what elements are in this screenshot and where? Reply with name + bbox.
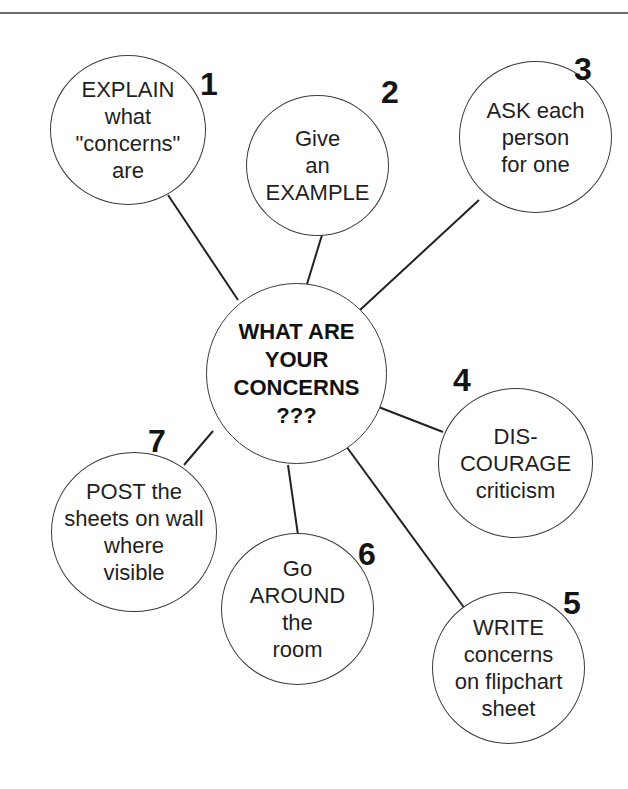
central-topic-node: WHAT ARE YOUR CONCERNS ??? [206, 283, 387, 464]
step-number-7: 7 [148, 425, 166, 457]
central-topic-label: WHAT ARE YOUR CONCERNS ??? [234, 318, 360, 430]
step-label-2: Give an EXAMPLE [266, 125, 370, 206]
step-number-6: 6 [358, 538, 376, 570]
step-label-5: WRITE concerns on flipchart sheet [455, 614, 563, 722]
step-label-4: DIS- COURAGE criticism [460, 423, 571, 504]
step-number-4: 4 [453, 364, 471, 396]
step-node-1-explain: EXPLAIN what "concerns" are [50, 55, 206, 205]
step-node-6-go-around: Go AROUND the room [221, 533, 374, 685]
step-number-1: 1 [200, 68, 218, 100]
connector-6 [288, 465, 298, 535]
step-number-2: 2 [381, 76, 399, 108]
step-number-3: 3 [574, 53, 592, 85]
step-label-1: EXPLAIN what "concerns" are [76, 76, 181, 184]
step-label-3: ASK each person for one [487, 97, 585, 178]
connector-1 [168, 195, 238, 300]
connector-7 [184, 431, 213, 465]
step-node-4-discourage: DIS- COURAGE criticism [438, 388, 593, 538]
step-number-5: 5 [563, 587, 581, 619]
connector-3 [360, 200, 479, 310]
connector-4 [376, 406, 443, 432]
step-label-7: POST the sheets on wall where visible [64, 478, 203, 586]
step-label-6: Go AROUND the room [250, 555, 345, 663]
step-node-7-post: POST the sheets on wall where visible [51, 452, 217, 612]
connector-2 [307, 235, 322, 284]
step-node-2-example: Give an EXAMPLE [246, 95, 389, 236]
